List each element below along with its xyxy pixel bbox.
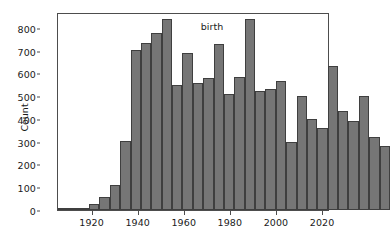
histogram-bar <box>245 19 255 210</box>
histogram-bar <box>89 204 99 210</box>
histogram-bar <box>265 89 275 210</box>
x-axis: 192019401960198020002020 <box>0 211 350 252</box>
y-tick-label: 600 <box>18 69 36 80</box>
histogram-bar <box>182 53 192 210</box>
histogram-bar <box>162 19 172 210</box>
x-tick-mark <box>276 211 277 215</box>
y-axis-label: Count <box>19 88 30 148</box>
histogram-bar <box>68 208 78 210</box>
histogram-bar <box>338 111 348 210</box>
histogram-bar <box>141 43 151 210</box>
x-tick-mark <box>184 211 185 215</box>
y-tick-mark <box>37 51 41 52</box>
x-tick-label: 1940 <box>125 217 150 228</box>
histogram-bar <box>99 197 109 210</box>
histogram-bar <box>151 33 161 210</box>
histogram-bar <box>286 142 296 210</box>
y-tick-label: 700 <box>18 46 36 57</box>
histogram-bar <box>203 78 213 210</box>
histogram-bar <box>131 50 141 210</box>
histogram-bar <box>380 146 390 210</box>
histogram-bar <box>110 185 120 210</box>
x-tick-label: 1960 <box>171 217 196 228</box>
x-tick-label: 2000 <box>264 217 289 228</box>
histogram-bar <box>234 77 244 210</box>
histogram-bar <box>276 81 286 210</box>
y-tick-label: 100 <box>18 183 36 194</box>
y-tick-mark <box>37 165 41 166</box>
x-tick-label: 2020 <box>310 217 335 228</box>
plot-area <box>57 13 329 211</box>
histogram-bar <box>369 137 379 210</box>
histogram-bar <box>317 128 327 210</box>
x-tick-label: 1920 <box>79 217 104 228</box>
x-tick-mark <box>138 211 139 215</box>
histogram-bar <box>79 208 89 210</box>
histogram-bar <box>359 96 369 210</box>
histogram-bar <box>348 121 358 210</box>
histogram-bar <box>224 94 234 210</box>
histogram-bar <box>58 208 68 210</box>
histogram-bar <box>307 119 317 210</box>
x-axis-label-text: birth <box>201 21 223 32</box>
histogram-bar <box>120 141 130 210</box>
x-tick-mark <box>322 211 323 215</box>
x-tick-label: 1980 <box>218 217 243 228</box>
histogram-bar <box>297 96 307 210</box>
histogram-bar <box>255 91 265 210</box>
x-axis-label: birth <box>0 21 350 32</box>
x-tick-mark <box>230 211 231 215</box>
x-tick-mark <box>92 211 93 215</box>
y-tick-mark <box>37 188 41 189</box>
y-tick-mark <box>37 119 41 120</box>
bars-layer <box>58 14 328 210</box>
histogram-bar <box>328 66 338 210</box>
histogram-bar <box>172 85 182 210</box>
y-tick-mark <box>37 142 41 143</box>
histogram-bar <box>193 83 203 210</box>
y-tick-mark <box>37 74 41 75</box>
y-tick-label: 200 <box>18 160 36 171</box>
y-tick-mark <box>37 97 41 98</box>
histogram-bar <box>214 44 224 210</box>
